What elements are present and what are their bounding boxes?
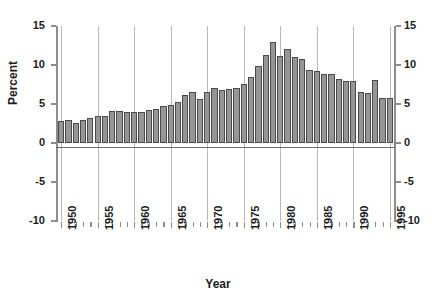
bar: [73, 123, 79, 143]
x-axis-title: Year: [0, 277, 436, 291]
bar: [138, 112, 144, 143]
x-axis-baseline: [56, 147, 395, 148]
y-tick-right: [396, 64, 401, 65]
bar: [153, 109, 159, 143]
bar: [379, 98, 385, 143]
bar: [204, 92, 210, 143]
y-tick-left: [51, 64, 56, 65]
y-tick-left: [51, 25, 56, 26]
bar: [175, 102, 181, 143]
bar: [226, 89, 232, 143]
x-tick-minor: [83, 222, 84, 227]
y-tick-right: [396, 181, 401, 182]
y-tick-label-right: 15: [404, 20, 416, 31]
x-tick-minor: [229, 222, 230, 227]
x-tick-minor: [163, 222, 164, 227]
bar: [277, 56, 283, 143]
x-tick-label: 1995: [395, 206, 407, 230]
x-tick-label: 1980: [285, 206, 297, 230]
x-tick-minor: [193, 222, 194, 227]
x-tick-major: [171, 222, 172, 228]
bar: [284, 49, 290, 143]
bar: [358, 92, 364, 143]
x-tick-major: [280, 222, 281, 228]
bar: [146, 110, 152, 143]
bar: [263, 55, 269, 143]
bar: [241, 84, 247, 143]
bar: [270, 42, 276, 143]
bar: [102, 116, 108, 143]
x-tick-minor: [236, 222, 237, 227]
bar: [160, 106, 166, 143]
x-tick-label: 1955: [103, 206, 115, 230]
y-tick-label-left: 15: [33, 20, 45, 31]
y-tick-left: [51, 103, 56, 104]
x-tick-major: [353, 222, 354, 228]
x-tick-minor: [383, 222, 384, 227]
bar: [58, 121, 64, 143]
x-tick-minor: [90, 222, 91, 227]
bar: [211, 88, 217, 143]
x-tick-minor: [200, 222, 201, 227]
x-tick-major: [244, 222, 245, 228]
bar: [328, 74, 334, 143]
x-tick-major: [134, 222, 135, 228]
x-tick-label: 1990: [358, 206, 370, 230]
y-tick-left: [51, 181, 56, 182]
x-tick-minor: [310, 222, 311, 227]
y-tick-right: [396, 25, 401, 26]
bar: [182, 95, 188, 143]
x-tick-minor: [375, 222, 376, 227]
y-axis-right: [394, 26, 396, 222]
bar: [131, 112, 137, 143]
x-tick-major: [317, 222, 318, 228]
x-tick-label: 1975: [249, 206, 261, 230]
x-tick-minor: [156, 222, 157, 227]
y-tick-label-left: -5: [35, 176, 45, 187]
y-tick-label-right: 5: [404, 98, 410, 109]
x-tick-minor: [302, 222, 303, 227]
y-tick-label-left: 10: [33, 59, 45, 70]
bar: [197, 99, 203, 143]
x-tick-major: [98, 222, 99, 228]
bar: [116, 111, 122, 143]
x-tick-major: [390, 222, 391, 228]
x-tick-label: 1970: [212, 206, 224, 230]
bar: [372, 80, 378, 143]
y-tick-label-left: 0: [39, 137, 45, 148]
x-tick-minor: [127, 222, 128, 227]
bar: [124, 112, 130, 143]
bar: [365, 93, 371, 143]
x-tick-minor: [346, 222, 347, 227]
bar: [306, 70, 312, 143]
bar: [387, 98, 393, 143]
y-tick-left: [51, 220, 56, 221]
bar: [321, 74, 327, 143]
y-tick-label-left: 5: [39, 98, 45, 109]
bar: [299, 59, 305, 143]
bar: [219, 90, 225, 143]
y-axis-title: Percent: [6, 61, 20, 105]
bar: [255, 66, 261, 143]
y-tick-label-left: -10: [29, 215, 45, 226]
bar: [336, 79, 342, 143]
x-tick-major: [61, 222, 62, 228]
bar: [65, 120, 71, 143]
bar: [292, 57, 298, 143]
x-tick-label: 1965: [176, 206, 188, 230]
bar: [80, 120, 86, 143]
y-tick-right: [396, 103, 401, 104]
x-tick-label: 1960: [139, 206, 151, 230]
bar: [233, 88, 239, 143]
x-tick-minor: [273, 222, 274, 227]
y-tick-left: [51, 142, 56, 143]
bar: [87, 118, 93, 143]
x-tick-major: [207, 222, 208, 228]
x-tick-minor: [266, 222, 267, 227]
bar: [189, 92, 195, 143]
bar: [109, 111, 115, 143]
bars-layer: [56, 26, 395, 143]
bar-chart-figure: -10-10-5-5005510101515 19501955196019651…: [0, 0, 436, 299]
bar: [248, 77, 254, 143]
bar: [314, 71, 320, 143]
